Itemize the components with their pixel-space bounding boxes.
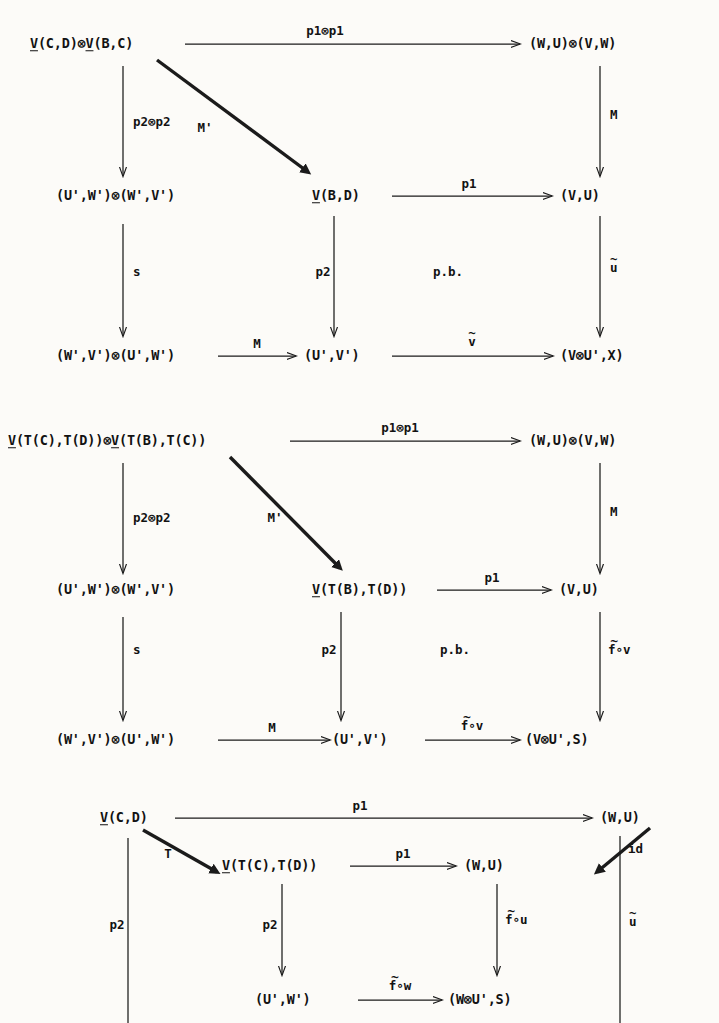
node-d2-bot-right: (V⊗U',S) xyxy=(525,733,588,747)
node-d1-bot-left: (W',V')⊗(U',W') xyxy=(56,349,175,363)
label-d3-top-horizontal: p1 xyxy=(352,800,367,813)
label-d2-pullback: p.b. xyxy=(440,644,470,657)
label-d3-inner-right-vertical: ~f∘u xyxy=(505,914,528,927)
label-d3-bot-horizontal: ~f∘w xyxy=(389,980,412,993)
label-d1-bot-horizontal-right: ~v xyxy=(468,336,476,349)
node-d2-mid-right: (V,U) xyxy=(559,583,599,597)
label-d3-diagonal-left: T xyxy=(164,848,172,861)
label-d1-diagonal: M' xyxy=(197,122,212,135)
label-d2-mid-horizontal: p1 xyxy=(484,572,499,585)
node-d3-bot-right: (W⊗U',S) xyxy=(448,993,511,1007)
node-d3-mid-left: V(T(C),T(D)) xyxy=(222,859,317,873)
label-d2-right-vertical-2: ~f∘v xyxy=(608,644,631,657)
label-d3-outer-right-vertical: ~u xyxy=(629,916,637,929)
node-d2-top-right: (W,U)⊗(V,W) xyxy=(529,434,616,448)
label-d3-inner-left-vertical: p2 xyxy=(262,919,277,932)
node-d1-mid-center: V(B,D) xyxy=(312,189,360,203)
node-d2-mid-left: (U',W')⊗(W',V') xyxy=(56,583,175,597)
node-d3-top-right: (W,U) xyxy=(600,811,640,825)
tilde-accent: ~ xyxy=(460,710,474,723)
node-d3-top-left: V(C,D) xyxy=(100,811,148,825)
label-d1-bot-horizontal-left: M xyxy=(253,338,261,351)
diagram-page: V(C,D)⊗V(B,C) (W,U)⊗(V,W) (U',W')⊗(W',V'… xyxy=(0,0,719,1023)
tilde-accent: ~ xyxy=(504,904,518,917)
tilde-accent: ~ xyxy=(468,327,476,340)
tilde-accent: ~ xyxy=(607,634,621,647)
label-d2-right-vertical-1: M xyxy=(610,506,618,519)
label-d1-top-horizontal: p1⊗p1 xyxy=(306,25,344,38)
label-d2-left-vertical-1: p2⊗p2 xyxy=(133,512,171,525)
label-d1-right-vertical-1: M xyxy=(610,109,618,122)
label-d3-outer-left-vertical: p2 xyxy=(109,919,124,932)
node-d1-top-right: (W,U)⊗(V,W) xyxy=(529,37,616,51)
label-d2-top-horizontal: p1⊗p1 xyxy=(381,422,419,435)
tilde-accent: ~ xyxy=(610,253,618,266)
node-d2-mid-center: V(T(B),T(D)) xyxy=(312,583,407,597)
node-d1-bot-center: (U',V') xyxy=(304,349,360,363)
label-d3-diagonal-right: id xyxy=(628,843,643,856)
node-d1-mid-left: (U',W')⊗(W',V') xyxy=(56,189,175,203)
tilde-accent: ~ xyxy=(388,970,402,983)
label-d2-bot-horizontal-left: M xyxy=(268,722,276,735)
label-d2-bot-horizontal-right: ~f∘v xyxy=(461,720,484,733)
node-d2-bot-center: (U',V') xyxy=(332,733,388,747)
label-d1-mid-horizontal: p1 xyxy=(461,178,476,191)
label-d2-diagonal: M' xyxy=(267,512,282,525)
node-d3-bot-left: (U',W') xyxy=(255,993,311,1007)
node-d3-mid-right: (W,U) xyxy=(464,859,504,873)
node-d1-bot-right: (V⊗U',X) xyxy=(560,349,623,363)
node-d1-mid-right: (V,U) xyxy=(560,189,600,203)
label-d1-center-vertical: p2 xyxy=(315,266,330,279)
label-d1-left-vertical-1: p2⊗p2 xyxy=(133,116,171,129)
label-d3-mid-horizontal: p1 xyxy=(395,848,410,861)
label-d1-right-vertical-2: ~u xyxy=(610,262,618,275)
node-d1-top-left: V(C,D)⊗V(B,C) xyxy=(30,37,133,51)
node-d2-bot-left: (W',V')⊗(U',W') xyxy=(56,733,175,747)
node-d2-top-left: V(T(C),T(D))⊗V(T(B),T(C)) xyxy=(8,434,206,448)
label-d2-left-vertical-2: s xyxy=(133,644,141,657)
label-d1-left-vertical-2: s xyxy=(133,266,141,279)
label-d1-pullback: p.b. xyxy=(433,266,463,279)
label-d2-center-vertical: p2 xyxy=(321,644,336,657)
tilde-accent: ~ xyxy=(629,907,637,920)
